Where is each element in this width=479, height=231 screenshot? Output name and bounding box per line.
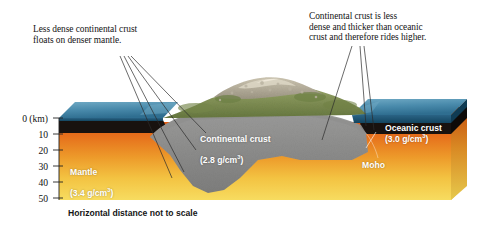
label-oceanic-crust: Oceanic crust xyxy=(385,123,442,133)
axis-tick-20: 20 xyxy=(0,146,48,156)
annotation-left: Less dense continental crust floats on d… xyxy=(33,24,137,45)
ocean-left xyxy=(59,102,178,121)
axis-tick-30: 30 xyxy=(0,162,48,172)
ocean-right xyxy=(352,99,467,123)
label-mantle: Mantle (3.4 g/cm3) xyxy=(70,157,113,198)
continental-crust-name: Continental crust xyxy=(200,134,271,144)
axis-tick-50: 50 xyxy=(0,194,48,204)
label-continental-crust: Continental crust (2.8 g/cm3) xyxy=(200,124,271,165)
axis-tick-10: 10 xyxy=(0,130,48,140)
label-oceanic-crust-density: (3.0 g/cm3) xyxy=(385,134,428,144)
mantle-density: (3.4 g/cm3) xyxy=(70,188,113,198)
figure-caption: Horizontal distance not to scale xyxy=(68,208,197,218)
figure-canvas: Less dense continental crust floats on d… xyxy=(0,0,479,231)
label-moho: Moho xyxy=(362,160,385,170)
mantle-name: Mantle xyxy=(70,167,97,177)
continental-crust-density: (2.8 g/cm3) xyxy=(200,155,243,165)
oceanic-crust-left xyxy=(59,120,169,133)
annotation-right: Continental crust is less dense and thic… xyxy=(309,11,426,43)
axis-tick-40: 40 xyxy=(0,178,48,188)
axis-tick-0: 0 (km) xyxy=(0,114,48,124)
